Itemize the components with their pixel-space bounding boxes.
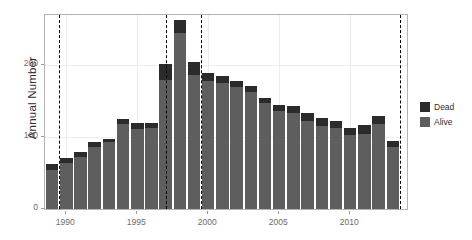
bar-segment-alive <box>301 121 313 209</box>
bar-segment-dead <box>117 119 129 124</box>
bar-segment-dead <box>103 139 115 143</box>
x-tick-label: 1990 <box>45 217 85 227</box>
bar-1990 <box>60 158 72 209</box>
bar-2012 <box>372 116 384 209</box>
bar-segment-alive <box>259 103 271 209</box>
bar-2006 <box>287 106 299 209</box>
gridline-horizontal <box>45 65 407 66</box>
bar-segment-dead <box>131 123 143 129</box>
y-tick-label: 100 <box>8 130 38 140</box>
reference-line-3 <box>400 15 401 209</box>
bar-segment-dead <box>287 106 299 112</box>
bar-segment-dead <box>174 20 186 33</box>
bar-segment-dead <box>316 118 328 126</box>
x-axis: 19901995200020052010 <box>44 211 408 237</box>
bar-1995 <box>131 123 143 209</box>
bar-segment-alive <box>145 128 157 209</box>
bar-2005 <box>273 105 285 209</box>
bar-2007 <box>301 113 313 209</box>
bar-2001 <box>216 76 228 209</box>
bar-segment-alive <box>372 124 384 209</box>
legend-label: Dead <box>434 102 454 112</box>
reference-line-1 <box>166 15 167 209</box>
bar-segment-dead <box>259 98 271 104</box>
bar-segment-dead <box>230 81 242 87</box>
reference-line-0 <box>59 15 60 209</box>
bar-segment-alive <box>117 124 129 209</box>
bar-1996 <box>145 123 157 209</box>
bar-2013 <box>387 141 399 209</box>
bar-1989 <box>46 164 58 209</box>
x-tick-mark <box>278 211 279 214</box>
bar-segment-dead <box>88 142 100 147</box>
bar-segment-alive <box>287 113 299 209</box>
bar-segment-dead <box>46 164 58 170</box>
bar-segment-alive <box>358 134 370 209</box>
bar-segment-alive <box>188 75 200 209</box>
bar-segment-dead <box>188 62 200 75</box>
reference-line-2 <box>201 15 202 209</box>
x-tick-mark <box>349 211 350 214</box>
bar-2003 <box>245 86 257 209</box>
bar-segment-alive <box>74 157 86 209</box>
bar-segment-dead <box>145 123 157 128</box>
bar-segment-dead <box>273 105 285 111</box>
bar-segment-dead <box>372 116 384 124</box>
bar-1993 <box>103 139 115 209</box>
bar-1994 <box>117 119 129 209</box>
legend-label: Alive <box>434 117 452 127</box>
bar-2008 <box>316 118 328 209</box>
bar-2010 <box>344 128 356 209</box>
bar-segment-alive <box>344 135 356 209</box>
bar-segment-alive <box>316 126 328 209</box>
x-tick-label: 2005 <box>258 217 298 227</box>
x-tick-label: 2000 <box>187 217 227 227</box>
x-tick-label: 1995 <box>116 217 156 227</box>
legend-swatch-icon <box>420 117 430 127</box>
chart-root: Annual Number 0100200 199019952000200520… <box>0 0 472 240</box>
bar-segment-alive <box>230 87 242 209</box>
bar-segment-dead <box>202 73 214 82</box>
bar-segment-alive <box>46 170 58 209</box>
x-tick-label: 2010 <box>329 217 369 227</box>
legend: DeadAlive <box>420 100 470 130</box>
bar-segment-alive <box>60 163 72 209</box>
bar-segment-alive <box>387 147 399 209</box>
bar-2000 <box>202 72 214 209</box>
y-tick-label: 200 <box>8 58 38 68</box>
bar-segment-dead <box>330 121 342 127</box>
x-tick-mark <box>65 211 66 214</box>
bar-segment-alive <box>174 33 186 209</box>
y-axis: 0100200 <box>8 14 44 210</box>
bar-segment-dead <box>245 86 257 92</box>
legend-item-alive: Alive <box>420 115 470 129</box>
bar-segment-alive <box>88 147 100 209</box>
bar-2002 <box>230 81 242 209</box>
bar-segment-dead <box>358 125 370 134</box>
x-tick-mark <box>136 211 137 214</box>
bar-segment-alive <box>245 92 257 209</box>
bar-segment-alive <box>273 111 285 209</box>
bar-2011 <box>358 125 370 209</box>
bar-segment-dead <box>60 158 72 163</box>
x-tick-mark <box>207 211 208 214</box>
y-tick-label: 0 <box>8 202 38 212</box>
bar-segment-alive <box>202 81 214 209</box>
bar-segment-dead <box>387 141 399 147</box>
bar-1991 <box>74 152 86 209</box>
bar-2004 <box>259 98 271 209</box>
bar-segment-dead <box>344 128 356 135</box>
bar-1992 <box>88 142 100 209</box>
bar-segment-alive <box>216 83 228 209</box>
bar-2009 <box>330 121 342 209</box>
bar-segment-dead <box>301 113 313 122</box>
bar-1998 <box>174 20 186 209</box>
bar-segment-dead <box>74 152 86 157</box>
bar-segment-alive <box>131 129 143 209</box>
bar-segment-alive <box>330 128 342 209</box>
bar-segment-alive <box>103 142 115 209</box>
legend-item-dead: Dead <box>420 100 470 114</box>
bar-1999 <box>188 62 200 209</box>
plot-area <box>44 14 408 210</box>
legend-swatch-icon <box>420 102 430 112</box>
